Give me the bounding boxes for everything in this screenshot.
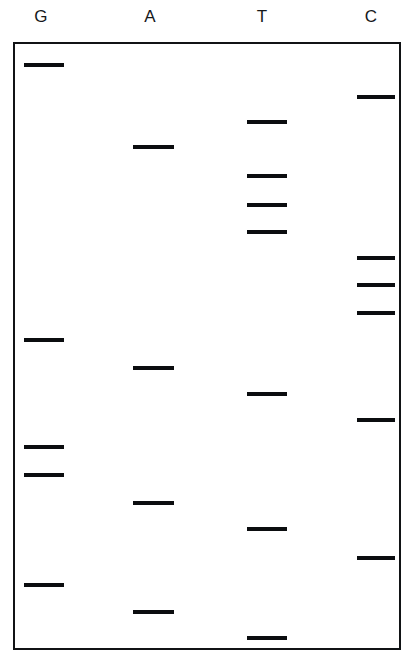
gel-band bbox=[133, 501, 174, 505]
gel-band bbox=[24, 473, 64, 477]
gel-lane-a bbox=[133, 44, 174, 648]
lane-label-a: A bbox=[130, 6, 170, 28]
gel-band bbox=[24, 445, 64, 449]
gel-band bbox=[133, 145, 174, 149]
gel-band bbox=[357, 283, 395, 287]
gel-band bbox=[247, 120, 287, 124]
lane-label-t: T bbox=[242, 6, 282, 28]
gel-band bbox=[247, 527, 287, 531]
lane-label-c: C bbox=[351, 6, 391, 28]
gel-band bbox=[24, 63, 64, 67]
gel-lane-group bbox=[15, 44, 399, 648]
gel-band bbox=[24, 583, 64, 587]
gel-band bbox=[133, 610, 174, 614]
gel-band bbox=[357, 556, 395, 560]
gel-band bbox=[357, 256, 395, 260]
gel-lane-c bbox=[357, 44, 395, 648]
gel-band bbox=[247, 203, 287, 207]
sequencing-gel-figure: GATC bbox=[0, 0, 414, 666]
gel-band bbox=[24, 338, 64, 342]
gel-lane-t bbox=[247, 44, 287, 648]
gel-band bbox=[357, 95, 395, 99]
gel-band bbox=[247, 636, 287, 640]
gel-lane-g bbox=[24, 44, 64, 648]
gel-plate-frame bbox=[13, 42, 401, 650]
lane-label-g: G bbox=[21, 6, 61, 28]
gel-band bbox=[247, 392, 287, 396]
gel-band bbox=[133, 366, 174, 370]
gel-band bbox=[247, 230, 287, 234]
gel-band bbox=[247, 174, 287, 178]
gel-band bbox=[357, 418, 395, 422]
gel-band bbox=[357, 311, 395, 315]
lane-label-row: GATC bbox=[0, 0, 414, 42]
